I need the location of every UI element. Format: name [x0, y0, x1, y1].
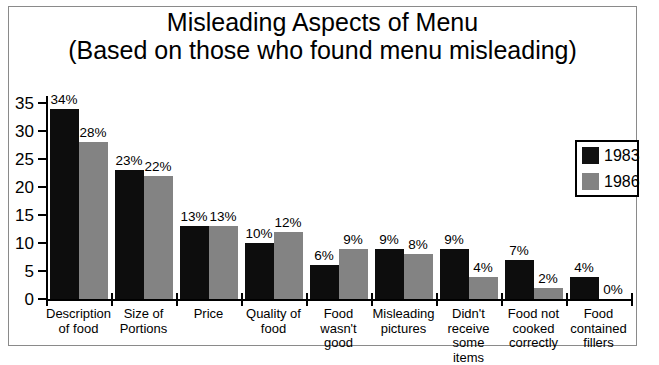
x-axis-category-label: Foodwasn't good	[306, 307, 371, 351]
x-axis-category-label: Food notcookedcorrectly	[501, 307, 566, 351]
x-axis-category-label: Didn'treceivesome items	[436, 307, 501, 365]
category-label-line: Food	[566, 307, 631, 322]
bar-value-label: 9%	[343, 233, 363, 247]
y-axis-label: 35	[2, 94, 34, 114]
bar-value-label: 4%	[574, 261, 594, 275]
x-axis-tick	[241, 293, 243, 306]
x-axis-line	[46, 299, 631, 301]
x-axis-category-label: Foodcontainedfillers	[566, 307, 631, 351]
bar-1986-2	[209, 226, 238, 299]
legend-label-1986: 1986	[604, 172, 640, 191]
bar-value-label: 28%	[79, 126, 106, 140]
bar-1983-2	[180, 226, 209, 299]
x-axis-tick	[111, 293, 113, 306]
y-axis-label: 5	[2, 262, 34, 282]
y-axis-tick	[38, 130, 48, 132]
legend-item-1983: 1983	[582, 146, 638, 166]
bar-value-label: 13%	[180, 210, 207, 224]
category-label-line: Portions	[111, 322, 176, 337]
bar-value-label: 12%	[274, 216, 301, 230]
category-label-line: Food not	[501, 307, 566, 322]
x-axis-category-label: Descriptionof food	[46, 307, 111, 336]
legend-label-1983: 1983	[604, 146, 640, 165]
y-axis-label: 25	[2, 150, 34, 170]
bar-1983-0	[50, 109, 79, 299]
bar-1986-7	[534, 288, 563, 299]
category-label-line: Price	[176, 307, 241, 322]
bar-1983-6	[440, 249, 469, 299]
category-label-line: wasn't good	[306, 322, 371, 351]
category-label-line: pictures	[371, 322, 436, 337]
category-label-line: cooked	[501, 322, 566, 337]
x-axis-category-label: Price	[176, 307, 241, 322]
y-axis-label: 15	[2, 206, 34, 226]
legend-swatch-1986-icon	[582, 173, 599, 190]
category-label-line: Didn't	[436, 307, 501, 322]
x-axis-category-label: Size ofPortions	[111, 307, 176, 336]
bar-value-label: 9%	[444, 233, 464, 247]
x-axis-tick	[436, 293, 438, 306]
y-axis-label: 0	[2, 290, 34, 310]
bar-1986-4	[339, 249, 368, 299]
bar-1983-5	[375, 249, 404, 299]
bar-value-label: 23%	[115, 154, 142, 168]
legend-swatch-1983-icon	[582, 147, 599, 164]
bar-1983-7	[505, 260, 534, 299]
x-axis-category-label: Quality offood	[241, 307, 306, 336]
category-label-line: Misleading	[371, 307, 436, 322]
category-label-line: food	[241, 322, 306, 337]
bar-value-label: 10%	[245, 227, 272, 241]
y-axis-tick	[38, 102, 48, 104]
y-axis-label: 30	[2, 122, 34, 142]
category-label-line: receive	[436, 322, 501, 337]
y-axis-label: 10	[2, 234, 34, 254]
y-axis-tick	[38, 214, 48, 216]
category-label-line: fillers	[566, 336, 631, 351]
chart-title: Misleading Aspects of Menu (Based on tho…	[9, 8, 636, 64]
bar-1986-3	[274, 232, 303, 299]
y-axis-tick	[38, 158, 48, 160]
bar-1983-1	[115, 170, 144, 299]
bar-value-label: 2%	[538, 272, 558, 286]
y-axis-label: 20	[2, 178, 34, 198]
category-label-line: Quality of	[241, 307, 306, 322]
chart-title-line-2: (Based on those who found menu misleadin…	[9, 36, 636, 64]
x-axis-category-label: Misleadingpictures	[371, 307, 436, 336]
category-label-line: some items	[436, 336, 501, 365]
category-label-line: Food	[306, 307, 371, 322]
chart-title-line-1: Misleading Aspects of Menu	[9, 8, 636, 36]
bar-value-label: 0%	[603, 283, 623, 297]
bar-1986-1	[144, 176, 173, 299]
category-label-line: Size of	[111, 307, 176, 322]
category-label-line: of food	[46, 322, 111, 337]
y-axis-tick	[38, 270, 48, 272]
x-axis-tick	[371, 293, 373, 306]
bar-1983-4	[310, 265, 339, 299]
x-axis-tick	[306, 293, 308, 306]
bar-value-label: 7%	[509, 244, 529, 258]
bar-value-label: 9%	[379, 233, 399, 247]
bar-value-label: 8%	[408, 238, 428, 252]
bar-value-label: 22%	[144, 160, 171, 174]
x-axis-tick	[566, 293, 568, 306]
category-label-line: correctly	[501, 336, 566, 351]
bar-value-label: 4%	[473, 261, 493, 275]
x-axis-tick	[631, 293, 633, 306]
x-axis-tick	[501, 293, 503, 306]
bar-1983-8	[570, 277, 599, 299]
bar-value-label: 13%	[209, 210, 236, 224]
x-axis-tick	[46, 293, 48, 306]
legend-item-1986: 1986	[582, 172, 638, 192]
y-axis-tick	[38, 186, 48, 188]
bar-1986-6	[469, 277, 498, 299]
bar-1983-3	[245, 243, 274, 299]
bar-value-label: 34%	[50, 93, 77, 107]
x-axis-tick	[176, 293, 178, 306]
y-axis-tick	[38, 242, 48, 244]
bar-1986-0	[79, 142, 108, 299]
category-label-line: contained	[566, 322, 631, 337]
bar-value-label: 6%	[314, 249, 334, 263]
chart-legend: 1983 1986	[575, 140, 639, 197]
category-label-line: Description	[46, 307, 111, 322]
